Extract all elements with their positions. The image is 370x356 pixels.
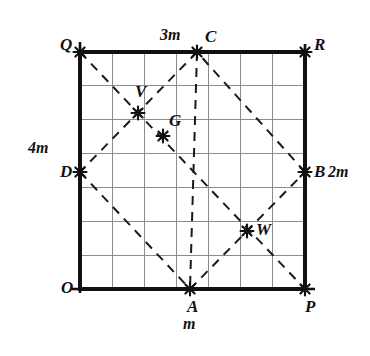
dashed-construction-lines — [80, 52, 305, 289]
dimension-label-bottom: m — [183, 316, 195, 332]
point-label-o: O — [61, 279, 73, 296]
geometry-diagram: QCRVGDBWOAP 3m 4m 2m m — [0, 0, 370, 356]
dimension-label-top: 3m — [160, 27, 180, 43]
point-label-c: C — [205, 28, 216, 45]
point-label-g: G — [169, 112, 181, 129]
point-label-a: A — [187, 298, 198, 315]
dimension-label-right: 2m — [328, 164, 348, 180]
point-label-d: D — [60, 163, 72, 180]
point-label-b: B — [314, 163, 325, 180]
point-label-r: R — [314, 36, 325, 53]
point-label-w: W — [256, 221, 271, 238]
dimension-label-left: 4m — [28, 140, 48, 156]
point-label-p: P — [305, 298, 315, 315]
point-label-v: V — [135, 83, 146, 100]
point-label-q: Q — [60, 36, 72, 53]
